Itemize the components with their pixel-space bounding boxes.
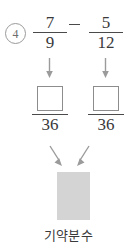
fraction-seven-ninths: 7 9	[33, 14, 67, 51]
arrow-down-icon	[45, 58, 54, 78]
numerator: 7	[33, 14, 67, 31]
denominator: 36	[86, 116, 126, 134]
minus-operator-icon	[69, 24, 80, 25]
fraction-five-twelfths: 5 12	[89, 14, 123, 51]
denominator: 36	[30, 116, 70, 134]
converted-fraction-right: 36	[86, 86, 126, 134]
arrow-down-icon	[101, 58, 110, 78]
caption-label: 기약분수	[0, 228, 137, 244]
numerator-answer-box-right[interactable]	[93, 86, 119, 111]
worksheet-canvas: 4 7 9 5 12 36 36	[0, 0, 137, 249]
denominator: 12	[89, 34, 123, 51]
converted-fraction-left: 36	[30, 86, 70, 134]
denominator: 9	[33, 34, 67, 51]
problem-number-badge: 4	[5, 23, 26, 44]
numerator: 5	[89, 14, 123, 31]
arrow-down-right-icon	[48, 145, 64, 167]
result-answer-box[interactable]	[57, 172, 90, 220]
numerator-answer-box-left[interactable]	[37, 86, 63, 111]
arrow-down-left-icon	[75, 145, 91, 167]
